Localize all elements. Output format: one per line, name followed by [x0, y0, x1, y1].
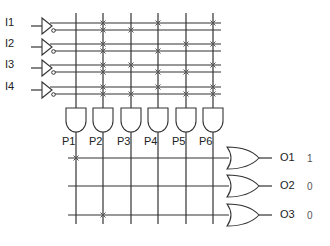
- output-label-o1: O1: [280, 152, 295, 163]
- and-gate-icon: [203, 108, 223, 132]
- or-gate-icon: [227, 175, 259, 197]
- or-gate-icon: [227, 147, 259, 169]
- product-label-p6: P6: [199, 136, 212, 147]
- input-label-i2: I2: [5, 38, 14, 49]
- buffer-inverter-icon: [42, 82, 52, 98]
- and-gate-icon: [66, 108, 86, 132]
- and-gate-icon: [176, 108, 196, 132]
- output-value-o1: 1: [307, 154, 313, 164]
- output-label-o3: O3: [280, 209, 295, 220]
- output-label-o2: O2: [280, 180, 295, 191]
- product-label-p2: P2: [89, 136, 102, 147]
- buffer-inverter-icon: [42, 60, 52, 76]
- product-label-p1: P1: [62, 136, 75, 147]
- inversion-bubble-icon: [52, 29, 56, 33]
- and-gate-icon: [148, 108, 168, 132]
- and-gate-icon: [93, 108, 113, 132]
- input-label-i3: I3: [5, 59, 14, 70]
- product-label-p5: P5: [172, 136, 185, 147]
- or-gate-icon: [227, 204, 259, 226]
- inversion-bubble-icon: [52, 50, 56, 54]
- input-label-i1: I1: [5, 17, 14, 28]
- inversion-bubble-icon: [52, 71, 56, 75]
- buffer-inverter-icon: [42, 18, 52, 34]
- output-value-o2: 0: [307, 182, 313, 192]
- buffer-inverter-icon: [42, 39, 52, 55]
- product-label-p3: P3: [117, 136, 130, 147]
- output-value-o3: 0: [307, 211, 313, 221]
- product-label-p4: P4: [144, 136, 157, 147]
- input-label-i4: I4: [5, 81, 14, 92]
- and-gate-icon: [121, 108, 141, 132]
- inversion-bubble-icon: [52, 93, 56, 97]
